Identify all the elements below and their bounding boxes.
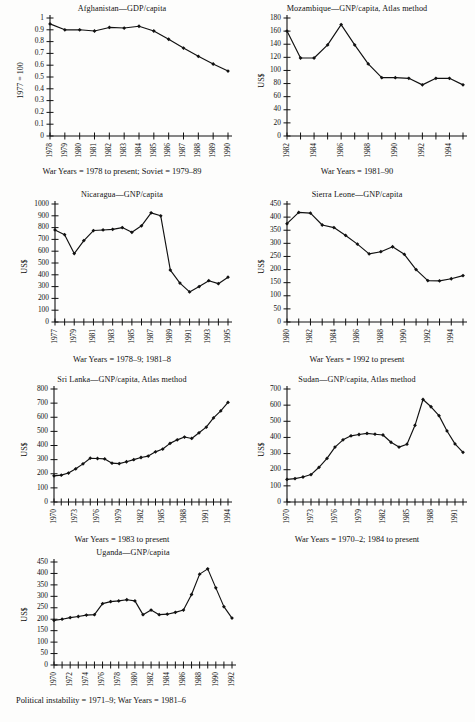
- y-axis-label: US$: [20, 420, 29, 480]
- data-point-marker: [78, 28, 82, 32]
- y-tick-label: 250: [37, 602, 48, 611]
- data-point-marker: [365, 431, 369, 435]
- chart-title: Sudan—GNP/capita, Atlas method: [243, 375, 471, 384]
- chart-title: Uganda—GNP/capita: [8, 548, 258, 557]
- chart-panel-sudan: Sudan—GNP/capita, Atlas method US$ 01002…: [243, 375, 471, 553]
- data-point-marker: [101, 228, 105, 232]
- chart-svg-sierra-leone: 0501001502002503003504004501980198219841…: [285, 202, 475, 366]
- x-tick-label: 1982: [104, 143, 113, 158]
- x-tick-label: 1978: [113, 672, 122, 687]
- y-tick-label: 0.4: [35, 84, 45, 93]
- y-tick-label: 200: [270, 264, 281, 273]
- series-line: [54, 569, 232, 621]
- series-line: [50, 24, 228, 71]
- x-tick-label: 1976: [330, 509, 339, 524]
- data-point-marker: [379, 250, 383, 254]
- x-tick-label: 1986: [352, 329, 361, 344]
- data-point-marker: [107, 26, 111, 30]
- y-tick-label: 100: [38, 305, 49, 314]
- series-line: [54, 402, 228, 475]
- x-tick-label: 1994: [444, 143, 453, 158]
- y-tick-label: 400: [270, 432, 281, 441]
- y-tick-label: 0: [40, 131, 44, 140]
- y-tick-label: 40: [274, 104, 282, 113]
- data-point-marker: [449, 277, 453, 281]
- y-tick-label: 500: [38, 258, 49, 267]
- x-tick-label: 1988: [363, 143, 372, 158]
- x-tick-label: 1991: [450, 509, 459, 524]
- x-tick-label: 1985: [127, 329, 136, 344]
- data-point-marker: [285, 478, 289, 482]
- y-tick-label: 250: [270, 251, 281, 260]
- x-tick-label: 1980: [282, 329, 291, 344]
- y-tick-label: 140: [270, 39, 281, 48]
- data-point-marker: [173, 610, 177, 614]
- data-point-marker: [137, 24, 141, 28]
- x-tick-label: 1992: [417, 143, 426, 158]
- x-tick-label: 1992: [227, 672, 236, 687]
- data-point-marker: [59, 473, 63, 477]
- y-tick-label: 80: [274, 78, 282, 87]
- page-canvas: Afghanistan—GDP/capita 1977 = 100 00.10.…: [0, 0, 475, 722]
- y-tick-label: 0: [277, 131, 281, 140]
- x-tick-label: 1991: [184, 329, 193, 344]
- y-tick-label: 100: [270, 481, 281, 490]
- x-tick-label: 1980: [74, 143, 83, 158]
- x-tick-label: 1974: [81, 672, 90, 687]
- y-tick-label: 700: [270, 384, 281, 393]
- x-tick-label: 1993: [203, 329, 212, 344]
- chart-panel-uganda: Uganda—GNP/capita US$ 050100150200250300…: [8, 548, 258, 718]
- x-tick-label: 1987: [178, 143, 187, 158]
- y-axis-label: 1977 = 100: [16, 51, 25, 111]
- data-point-marker: [461, 83, 465, 87]
- y-tick-label: 350: [37, 580, 48, 589]
- x-tick-label: 1986: [336, 143, 345, 158]
- data-point-marker: [405, 442, 409, 446]
- y-tick-label: 300: [37, 591, 48, 600]
- y-tick-label: 400: [37, 440, 48, 449]
- x-tick-label: 1979: [69, 329, 78, 344]
- y-tick-label: 0.7: [35, 48, 45, 57]
- y-tick-label: 300: [37, 454, 48, 463]
- data-point-marker: [117, 462, 121, 466]
- data-point-marker: [357, 433, 361, 437]
- data-point-marker: [120, 226, 124, 230]
- y-tick-label: 0.5: [35, 72, 45, 81]
- data-point-marker: [84, 613, 88, 617]
- y-tick-label: 100: [37, 637, 48, 646]
- y-tick-label: 300: [270, 238, 281, 247]
- y-tick-label: 50: [274, 304, 282, 313]
- y-tick-label: 350: [270, 225, 281, 234]
- chart-svg-sri-lanka: 0100200300400500600700800197019731976197…: [52, 387, 256, 546]
- x-tick-label: 1983: [119, 143, 128, 158]
- data-point-marker: [63, 233, 67, 237]
- chart-caption: War Years = 1978 to present; Soviet = 19…: [8, 167, 236, 176]
- x-tick-label: 1988: [426, 509, 435, 524]
- x-tick-label: 1981: [88, 329, 97, 344]
- y-tick-label: 200: [38, 293, 49, 302]
- chart-caption: War Years = 1981–90: [243, 167, 471, 176]
- data-point-marker: [60, 617, 64, 621]
- data-point-marker: [139, 456, 143, 460]
- chart-svg-sudan: 0100200300400500600700197019731976197919…: [285, 387, 475, 546]
- chart-svg-uganda: 0501001502002503003504004501970197219741…: [52, 560, 260, 709]
- x-tick-label: 1984: [134, 143, 143, 158]
- y-axis-label: US$: [257, 51, 266, 111]
- y-tick-label: 1000: [34, 199, 49, 208]
- y-tick-label: 200: [270, 464, 281, 473]
- plot-area: 0100200300400500600700800900100019771979…: [53, 202, 226, 320]
- chart-caption: War Years = 1983 to present: [8, 535, 236, 544]
- data-point-marker: [63, 28, 67, 32]
- y-axis-label: US$: [257, 420, 266, 480]
- y-tick-label: 120: [270, 52, 281, 61]
- x-tick-label: 1982: [146, 672, 155, 687]
- data-point-marker: [434, 76, 438, 80]
- data-point-marker: [448, 76, 452, 80]
- data-point-marker: [293, 477, 297, 481]
- y-tick-label: 0: [45, 317, 49, 326]
- plot-area: 0100200300400500600700800197019731976197…: [52, 387, 226, 500]
- y-tick-label: 900: [38, 211, 49, 220]
- y-tick-label: 160: [270, 26, 281, 35]
- plot-area: 0501001502002503003504004501980198219841…: [285, 202, 461, 320]
- x-tick-label: 1979: [60, 143, 69, 158]
